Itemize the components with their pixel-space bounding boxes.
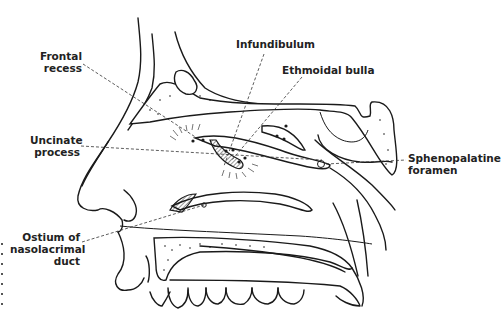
teeth [150,288,304,308]
label-frontal-recess-line1: Frontal [38,50,82,62]
label-ostium-line2: nasolacrimal [10,243,80,255]
label-infundibulum-line1: Infundibulum [236,38,315,50]
label-frontal-recess: Frontal recess [38,50,82,74]
label-ethmoidal-bulla-line1: Ethmoidal bulla [282,64,375,76]
label-sphenopalatine-foramen-line1: Sphenopalatine [408,152,501,164]
label-sphenopalatine-foramen: Sphenopalatine foramen [408,152,501,176]
page-edge-marks [1,243,5,313]
middle-turbinate [170,124,330,179]
label-uncinate-process-line2: process [30,146,80,158]
label-ostium-nasolacrimal-duct: Ostium of nasolacrimal duct [10,231,80,267]
label-frontal-recess-line2: recess [38,62,82,74]
label-infundibulum: Infundibulum [236,38,315,50]
label-ostium-line1: Ostium of [10,231,80,243]
upper-lip-palate [116,232,364,306]
label-ethmoidal-bulla: Ethmoidal bulla [282,64,375,76]
label-sphenopalatine-foramen-line2: foramen [408,164,501,176]
skull-base-bone [130,70,397,175]
label-ostium-line3: duct [10,255,80,267]
label-uncinate-process: Uncinate process [30,134,80,158]
label-uncinate-process-line1: Uncinate [30,134,80,146]
inferior-turbinate [170,192,312,212]
